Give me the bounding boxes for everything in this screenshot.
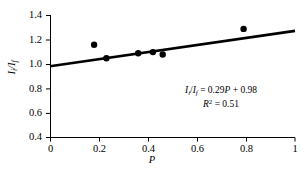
regression-equation-line: Ii/If = 0.29P + 0.98 [150,84,292,97]
y-axis-title-num: I [6,71,17,75]
r-squared-line: R2 = 0.51 [150,97,292,111]
equation-operator: = 0.29 [198,85,225,95]
equation-annotation: Ii/If = 0.29P + 0.98 R2 = 0.51 [150,84,292,110]
x-tick-label: 0.8 [234,144,260,155]
y-tick-label: 0.8 [16,84,42,95]
data-point [91,42,97,48]
x-tick-label: 0.6 [185,144,211,155]
x-tick-label: 0.4 [136,144,162,155]
y-axis-title: Ii/If [7,61,18,75]
x-tick-label: 0 [38,144,64,155]
data-point [160,51,166,57]
data-point [135,50,141,56]
y-tick-label: 0.4 [16,132,42,143]
r-squared-value: = 0.51 [212,99,239,109]
y-axis-title-den: I [6,63,17,67]
trendline [50,31,295,66]
y-tick-label: 1.4 [16,10,42,21]
data-point [240,26,246,32]
equation-tail: + 0.98 [230,85,257,95]
y-tick-label: 1.0 [16,59,42,70]
y-axis-title-den-sub: f [10,60,19,62]
data-point [103,55,109,61]
data-point [150,49,156,55]
scatter-chart-figure: 1.4 1.2 1.0 0.8 0.6 0.4 0 0.2 0.4 0.6 0.… [0,0,304,174]
y-axis-title-slash: / [6,66,17,69]
y-axis-ticks [46,16,50,138]
y-tick-label: 1.2 [16,35,42,46]
y-axis-title-num-sub: i [10,69,19,71]
y-tick-label: 0.6 [16,108,42,119]
x-tick-label: 0.2 [87,144,113,155]
x-axis-title: P [0,155,304,166]
x-axis-ticks [51,138,296,142]
x-tick-label: 1 [282,144,304,155]
